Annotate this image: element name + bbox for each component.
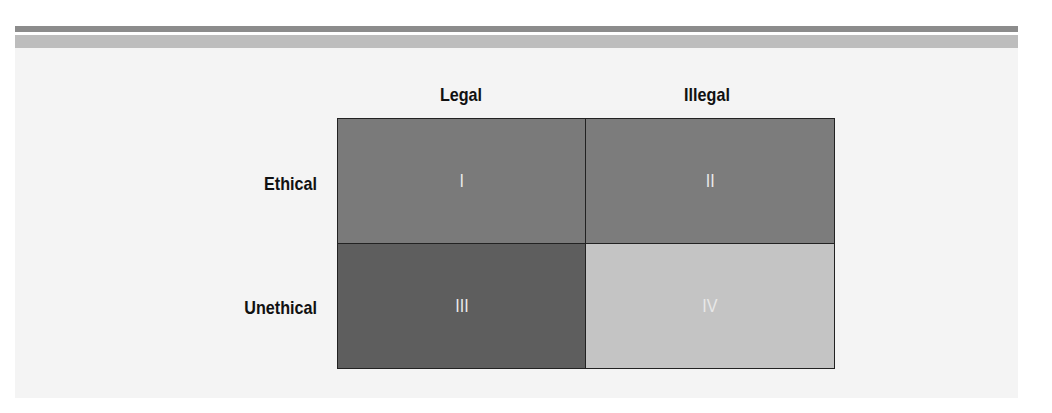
quadrant-4: IV [586,244,834,369]
quadrant-2-label: II [706,170,715,192]
quadrant-2: II [586,119,834,244]
column-label-legal: Legal [393,84,529,106]
quadrant-3-label: III [455,295,468,317]
ethics-legality-matrix: I II III IV [337,118,835,369]
quadrant-1-label: I [459,170,463,192]
row-label-unethical: Unethical [190,297,318,319]
column-label-illegal: Illegal [639,84,775,106]
row-label-ethical: Ethical [190,173,318,195]
quadrant-3: III [338,244,586,369]
top-rule-dark [15,26,1018,32]
quadrant-1: I [338,119,586,244]
quadrant-4-label: IV [702,295,717,317]
top-rule-light [15,35,1018,48]
